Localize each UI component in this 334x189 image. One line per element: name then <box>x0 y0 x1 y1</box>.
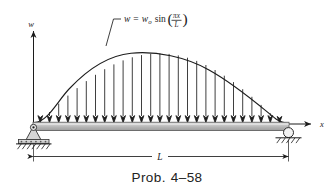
page-background <box>0 0 334 189</box>
equation-equals: = <box>133 14 138 24</box>
equation-fraction-numerator: πx <box>173 12 181 20</box>
beam-loading-diagram: w x <box>0 0 334 189</box>
support-base-plate <box>19 140 50 144</box>
beam-body <box>33 122 289 130</box>
equation-sin: sin <box>155 14 166 24</box>
equation-paren-close: ) <box>183 10 188 28</box>
equation-text: w=wosin <box>124 14 166 25</box>
caption-number: 4–58 <box>171 170 203 185</box>
roller-circle <box>284 128 294 138</box>
caption-prefix: Prob. <box>132 170 166 185</box>
equation-paren-open: ( <box>168 10 173 28</box>
figure-root: w x <box>0 0 334 189</box>
dimension-label-L: L <box>156 152 162 162</box>
beam <box>33 122 289 130</box>
w-axis-label: w <box>28 19 34 29</box>
equation-amplitude-subscript: o <box>148 18 152 25</box>
pin-center-dot <box>32 126 34 128</box>
x-axis-label: x <box>319 119 324 129</box>
equation-fraction-denominator: L <box>174 21 179 29</box>
equation-lhs: w <box>124 14 131 24</box>
